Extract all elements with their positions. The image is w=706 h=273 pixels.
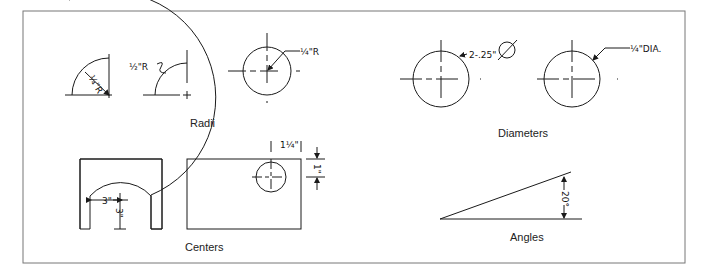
radius-circle-label: ¼"R xyxy=(300,47,319,57)
center-rect-vertical-label: 1" xyxy=(312,164,322,174)
radius-half-arc-label: ½"R xyxy=(129,62,148,72)
caption-angles: Angles xyxy=(510,231,544,243)
radius-quarter-arc-diagram xyxy=(65,54,112,98)
caption-radii: Radii xyxy=(190,117,215,129)
radius-circle-diagram xyxy=(228,33,306,103)
caption-diameters: Diameters xyxy=(498,127,549,139)
radius-half-arc-diagram xyxy=(143,50,191,99)
diameter-circle-2 xyxy=(537,40,630,115)
center-arch-diagram xyxy=(69,0,216,229)
angle-value-label: 20° xyxy=(560,191,570,207)
diameter-circle-1 xyxy=(400,40,517,115)
center-rect-horizontal-label: 1¼" xyxy=(280,140,299,150)
center-arch-vertical-label: 3" xyxy=(114,208,124,218)
dimensioning-figure: ¼"R ½"R ¼"R 2-.25" ¼"DIA. 3" 3" 1¼" 1" 2… xyxy=(0,0,706,273)
diameter-dimension-label: 2-.25" xyxy=(469,50,496,60)
caption-centers: Centers xyxy=(185,241,224,253)
center-arch-horizontal-label: 3" xyxy=(102,196,112,206)
figure-frame xyxy=(23,11,685,263)
center-rectangle-diagram xyxy=(187,141,325,229)
radius-quarter-arc-label: ¼"R xyxy=(87,74,105,96)
diameter-leader-label: ¼"DIA. xyxy=(630,44,661,54)
